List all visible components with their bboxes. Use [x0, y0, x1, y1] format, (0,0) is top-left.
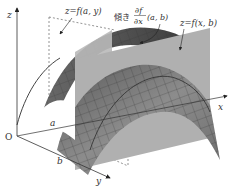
slope-args: (a, b) [147, 13, 168, 22]
y-axis-label: y [95, 176, 102, 186]
slope-denominator: ∂x [134, 17, 143, 26]
annotation-f-a-y: z=f(a, y) [64, 6, 102, 16]
slope-numerator: ∂f [135, 6, 144, 15]
point-a-label: a [50, 118, 55, 128]
partial-derivative-diagram: z x y O a b z=f(a, y) 傾き ∂f ∂x (a, b) z=… [0, 0, 230, 191]
point-b-label: b [57, 156, 63, 166]
z-axis-label: z [6, 10, 12, 20]
x-axis-label: x [218, 102, 223, 112]
slope-prefix: 傾き [114, 13, 130, 22]
annotation-f-x-b: z=f(x, b) [179, 18, 217, 28]
origin-label: O [5, 132, 12, 142]
